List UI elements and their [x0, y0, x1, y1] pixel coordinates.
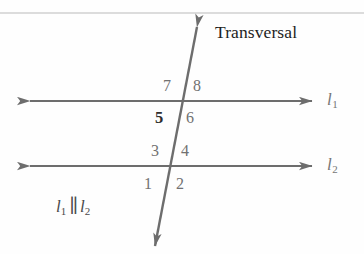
line-label-l2: l2: [327, 156, 337, 173]
angle-label-6: 6: [186, 110, 194, 126]
angle-label-3: 3: [151, 143, 159, 159]
parallel-statement-l2-subscript: 2: [85, 205, 91, 217]
angle-label-2: 2: [176, 176, 184, 192]
line-label-l2-subscript: 2: [332, 163, 338, 175]
angle-label-1: 1: [144, 176, 152, 192]
parallel-statement: l1∥l2: [56, 196, 90, 215]
angle-label-5: 5: [155, 110, 163, 127]
angle-label-7: 7: [163, 78, 171, 94]
angle-label-8: 8: [193, 78, 201, 94]
transversal-label: Transversal: [215, 24, 297, 42]
diagram-canvas: [0, 0, 364, 254]
parallel-lines-transversal-figure: Transversal l1 l2 7 8 5 6 3 4 1 2 l1∥l2: [0, 0, 364, 254]
transversal-line: [155, 27, 197, 246]
parallel-symbol-icon: ∥: [66, 195, 80, 216]
angle-label-4: 4: [181, 143, 189, 159]
line-label-l1-subscript: 1: [332, 98, 338, 110]
parallel-statement-l1-subscript: 1: [61, 205, 67, 217]
line-label-l1: l1: [327, 91, 337, 108]
